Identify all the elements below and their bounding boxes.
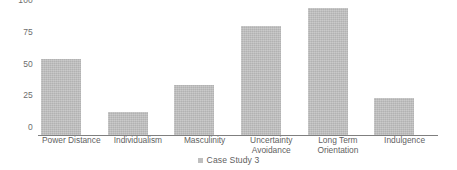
y-tick-label-50: 50 [23,59,33,68]
category-label-masculinity: Masculinity [171,136,238,146]
y-tick-label-75: 75 [23,28,33,37]
bar-masculinity[interactable] [174,85,214,135]
plot-area [38,8,438,135]
bar-uncertainty-avoidance[interactable] [241,26,281,135]
y-axis: 0 25 50 75 100 [0,0,38,170]
bar-long-term-orientation[interactable] [308,8,348,135]
bars-layer [38,8,438,135]
bar-indulgence[interactable] [374,98,414,135]
bar-individualism[interactable] [108,112,148,135]
bar-slot-masculinity [171,8,238,135]
bar-slot-uncertainty-avoidance [238,8,305,135]
category-label-uncertainty-avoidance: Uncertainty Avoidance [238,136,305,155]
bar-slot-long-term-orientation [305,8,372,135]
bar-power-distance[interactable] [41,59,81,135]
category-label-long-term-orientation: Long Term Orientation [305,136,372,155]
y-tick-label-0: 0 [28,123,33,132]
bar-slot-individualism [105,8,172,135]
bar-slot-indulgence [371,8,438,135]
bar-slot-power-distance [38,8,105,135]
category-label-individualism: Individualism [105,136,172,146]
legend-label-case-study-3: Case Study 3 [207,156,260,165]
legend: Case Study 3 [0,156,457,165]
category-label-power-distance: Power Distance [38,136,105,146]
bar-chart: 0 25 50 75 100 Power Distance Individual… [0,0,457,170]
category-label-indulgence: Indulgence [371,136,438,146]
y-tick-label-25: 25 [23,91,33,100]
y-tick-label-100: 100 [18,0,33,4]
legend-swatch-icon [198,158,203,163]
